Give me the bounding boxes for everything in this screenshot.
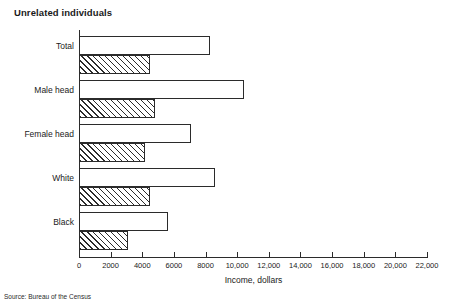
x-axis-tick — [206, 252, 207, 258]
bar-open — [79, 212, 168, 231]
category-label: Total — [56, 41, 74, 51]
bar-open — [79, 80, 244, 99]
bar-hatched — [79, 143, 145, 162]
x-axis-line — [79, 257, 428, 258]
page-title: Unrelated individuals — [14, 7, 112, 18]
category-label: White — [52, 173, 74, 183]
x-axis-tick-label: 22,000 — [416, 261, 439, 270]
x-axis-tick-label: 16,000 — [321, 261, 344, 270]
x-axis-tick — [237, 252, 238, 258]
bar-hatched — [79, 231, 128, 250]
x-axis-tick-label: 2000 — [102, 261, 119, 270]
x-axis-tick — [269, 252, 270, 258]
x-axis-tick — [427, 252, 428, 258]
x-axis-tick-label: 18,000 — [352, 261, 375, 270]
category-label: Black — [53, 217, 74, 227]
x-axis-tick — [79, 252, 80, 258]
x-axis-tick — [174, 252, 175, 258]
bar-open — [79, 168, 215, 187]
bar-hatched — [79, 55, 150, 74]
source-note: Source: Bureau of the Census — [4, 293, 91, 300]
x-axis-tick — [395, 252, 396, 258]
bar-hatched — [79, 187, 150, 206]
x-axis-tick — [142, 252, 143, 258]
x-axis-tick-label: 8000 — [197, 261, 214, 270]
x-axis-tick — [300, 252, 301, 258]
x-axis-tick — [111, 252, 112, 258]
x-axis-tick-label: 10,000 — [226, 261, 249, 270]
x-axis-tick-label: 4000 — [134, 261, 151, 270]
x-axis-tick-label: 20,000 — [384, 261, 407, 270]
x-axis-tick-label: 6000 — [166, 261, 183, 270]
x-axis-tick-label: 0 — [77, 261, 81, 270]
x-axis-title: Income, dollars — [79, 275, 428, 285]
category-label: Male head — [34, 85, 74, 95]
bar-hatched — [79, 99, 155, 118]
x-axis-tick-label: 12,000 — [257, 261, 280, 270]
bar-open — [79, 124, 191, 143]
category-label: Female head — [24, 129, 74, 139]
x-axis-tick — [332, 252, 333, 258]
x-axis-tick-label: 14,000 — [289, 261, 312, 270]
bar-open — [79, 36, 210, 55]
x-axis-tick — [364, 252, 365, 258]
